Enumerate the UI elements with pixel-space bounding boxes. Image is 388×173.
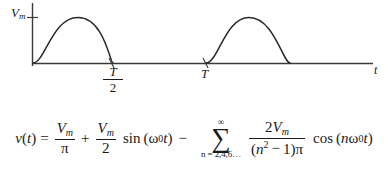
- waveform-hump-2: [206, 18, 290, 64]
- eq-lhs-v: v: [15, 130, 22, 147]
- eq-sin-function: sin: [118, 130, 141, 147]
- eq-equals: =: [36, 130, 52, 147]
- eq-term2-num-sub: m: [107, 126, 114, 137]
- eq-term2-denominator: 2: [100, 141, 112, 157]
- x-axis-label: t: [374, 64, 377, 76]
- eq-term3-den-minus: −: [269, 140, 283, 156]
- eq-minus: −: [173, 130, 193, 147]
- eq-term3-den-exponent: 2: [264, 139, 269, 150]
- eq-term3-den-one: 1: [283, 140, 291, 156]
- waveform-figure: Vm t T 2 T: [0, 0, 388, 104]
- eq-term3-bar: [249, 138, 305, 139]
- y-axis-label-subscript: m: [19, 11, 25, 21]
- eq-term1-fraction: Vm π: [55, 121, 75, 157]
- eq-term3-num-sub: m: [282, 125, 289, 136]
- eq-term1-num-sub: m: [66, 126, 73, 137]
- fourier-series-equation: v(t) = Vm π + Vm 2 sin (ω0t) − ∞ ∑: [0, 104, 388, 173]
- eq-term1-denominator: π: [59, 141, 71, 157]
- eq-term1-num-v: V: [57, 120, 66, 136]
- eq-term2-numerator: Vm: [96, 121, 116, 138]
- figure-page: Vm t T 2 T v(t) = Vm π + Vm: [0, 0, 388, 173]
- eq-cos-paren-close: ): [368, 130, 373, 147]
- eq-cos-omega: ω: [349, 130, 359, 147]
- eq-term3-num-v: V: [273, 119, 282, 135]
- eq-cos-n: n: [341, 130, 349, 147]
- y-axis-label-text: V: [11, 5, 19, 20]
- eq-sin-paren-open: (: [140, 130, 148, 147]
- eq-term2-num-v: V: [98, 120, 107, 136]
- eq-term3-den-pi: π: [296, 140, 304, 156]
- eq-term3-num-coef: 2: [265, 119, 273, 135]
- eq-term3-den-n: n: [256, 140, 264, 156]
- eq-summation: ∞ ∑ n = 2,4,6…: [201, 118, 241, 160]
- eq-term2-fraction: Vm 2: [96, 121, 116, 157]
- eq-cos-paren-open: (: [333, 130, 341, 147]
- y-axis-label: Vm: [11, 6, 25, 21]
- waveform-plot-svg: [0, 0, 388, 104]
- eq-cos-function: cos: [307, 130, 333, 147]
- eq-term3-denominator: (n2−1)π: [249, 140, 305, 157]
- eq-term3-fraction: 2Vm (n2−1)π: [249, 120, 305, 157]
- eq-summation-lower-limit: n = 2,4,6…: [201, 150, 241, 159]
- x-tick-label-t-half-numerator: T: [103, 65, 123, 78]
- waveform-hump-1: [33, 18, 113, 64]
- eq-sin-omega: ω: [148, 130, 158, 147]
- eq-plus: +: [77, 130, 93, 147]
- x-tick-label-t-half-denominator: 2: [103, 80, 123, 94]
- x-tick-label-t: T: [201, 67, 208, 80]
- eq-term1-numerator: Vm: [55, 121, 75, 138]
- x-tick-label-t-half: T 2: [103, 65, 123, 94]
- eq-summation-sigma: ∑: [211, 126, 230, 151]
- eq-term3-numerator: 2Vm: [263, 120, 291, 137]
- equation-row: v(t) = Vm π + Vm 2 sin (ω0t) − ∞ ∑: [15, 118, 372, 160]
